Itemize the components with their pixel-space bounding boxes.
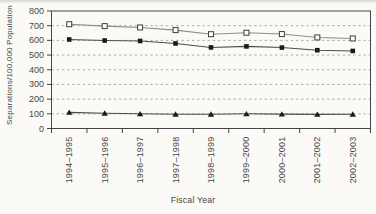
open-square-marker — [173, 28, 178, 33]
y-tick-label: 600 — [29, 35, 44, 45]
x-tick-label: 1995–1996 — [100, 137, 110, 184]
open-square-marker — [279, 32, 284, 37]
open-square-marker — [138, 25, 143, 30]
filled-square-marker — [138, 39, 143, 44]
open-square-marker — [244, 30, 249, 35]
x-tick-label: 1994–1995 — [64, 137, 74, 184]
y-tick-label: 500 — [29, 50, 44, 60]
open-square-marker — [209, 32, 214, 37]
y-tick-label: 0 — [39, 124, 44, 134]
y-tick-label: 300 — [29, 79, 44, 89]
open-square-marker — [67, 22, 72, 27]
filled-square-marker — [102, 38, 107, 43]
filled-square-marker — [67, 37, 72, 42]
x-tick-label: 1999–2000 — [241, 137, 251, 184]
x-tick-label: 2002–2003 — [348, 137, 358, 184]
filled-square-marker — [315, 48, 320, 53]
y-tick-label: 100 — [29, 109, 44, 119]
filled-square-marker — [280, 45, 285, 50]
y-tick-label: 200 — [29, 94, 44, 104]
open-square-marker — [350, 36, 355, 41]
filled-square-marker — [350, 49, 355, 54]
filled-square-marker — [173, 41, 178, 46]
open-square-series — [67, 22, 356, 41]
filled-square-marker — [209, 45, 214, 50]
filled-square-series — [67, 37, 355, 53]
open-square-marker — [102, 24, 107, 29]
filled-square-marker — [244, 44, 249, 49]
y-axis-title: Separations/100,000 Population — [5, 5, 14, 125]
filled-triangle-series — [66, 109, 356, 116]
x-tick-label: 2000–2001 — [277, 137, 287, 184]
x-tick-label: 2001–2002 — [312, 137, 322, 184]
x-tick-label: 1996–1997 — [135, 137, 145, 184]
y-tick-label: 800 — [29, 6, 44, 16]
y-tick-label: 400 — [29, 65, 44, 75]
line-chart: 01002003004005006007008001994–19951995–1… — [0, 0, 376, 214]
x-axis-title: Fiscal Year — [171, 195, 216, 205]
chart-figure: 01002003004005006007008001994–19951995–1… — [0, 0, 376, 214]
x-tick-label: 1998–1999 — [206, 137, 216, 184]
open-square-marker — [315, 35, 320, 40]
y-tick-label: 700 — [29, 21, 44, 31]
x-tick-label: 1997–1998 — [171, 137, 181, 184]
